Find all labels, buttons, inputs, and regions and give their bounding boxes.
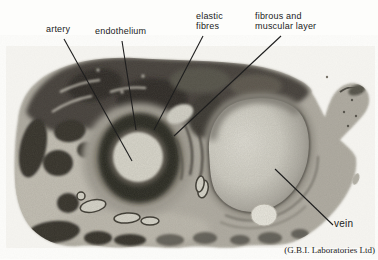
micrograph-photo	[0, 0, 378, 260]
label-artery: artery	[46, 24, 70, 34]
label-fibrous-muscular-layer: fibrous and muscular layer	[255, 11, 316, 31]
photo-grain-texture	[6, 46, 375, 248]
label-vein: vein	[334, 219, 353, 229]
label-elastic-fibres: elastic fibres	[196, 11, 223, 31]
micrograph-figure: artery endothelium elastic fibres fibrou…	[0, 0, 378, 260]
credit-text: (G.B.I. Laboratories Ltd)	[284, 245, 375, 255]
label-endothelium: endothelium	[95, 26, 146, 36]
